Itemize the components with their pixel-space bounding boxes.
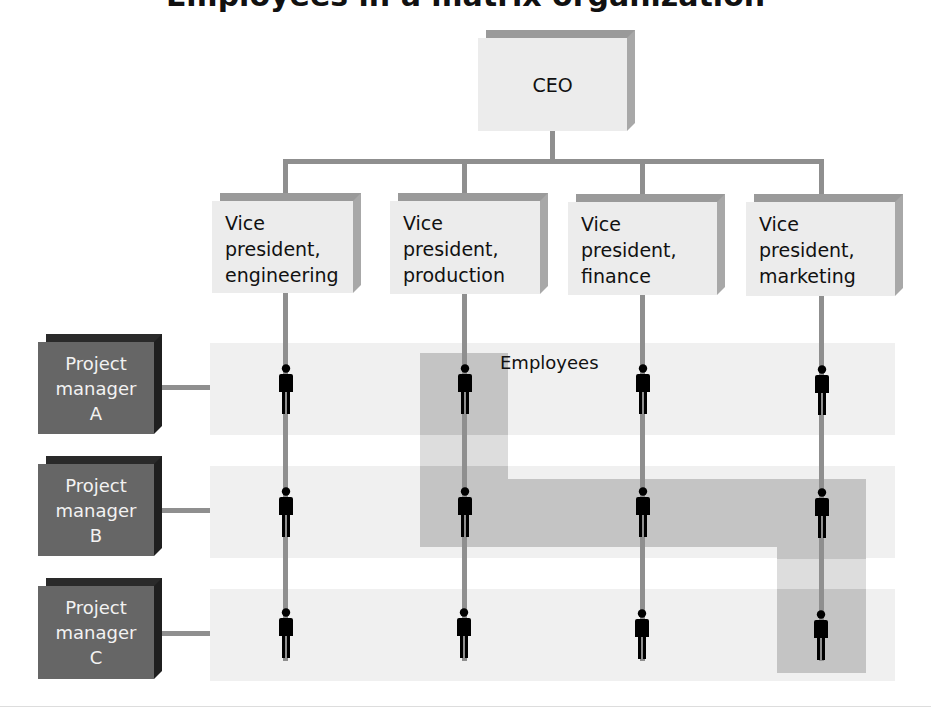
box-side-bevel — [154, 578, 162, 679]
finance-column-line — [640, 293, 645, 661]
highlight-b-finance-marketing — [508, 479, 866, 547]
person-icon — [635, 609, 649, 661]
box-side-bevel — [540, 193, 548, 294]
box-top-bevel — [576, 194, 725, 202]
person-icon — [279, 364, 293, 416]
box-side-bevel — [154, 456, 162, 556]
person-icon — [458, 364, 472, 416]
vp-production-box: Vice president, production — [390, 193, 548, 294]
box-top-bevel — [46, 456, 162, 464]
person-icon — [458, 487, 472, 539]
vp-marketing-box: Vice president, marketing — [746, 194, 903, 296]
ceo-label: CEO — [478, 38, 627, 131]
person-icon — [815, 488, 829, 540]
box-top-bevel — [754, 194, 903, 202]
marketing-column-line — [819, 295, 824, 661]
box-top-bevel — [46, 578, 162, 586]
ceo-box-top-bevel — [486, 30, 635, 38]
pm-b-box: Project manager B — [38, 456, 162, 556]
box-side-bevel — [353, 193, 361, 293]
diagram-title: Employees in a matrix organization — [0, 0, 931, 13]
vp-bus-connector — [283, 159, 824, 164]
box-top-bevel — [220, 193, 361, 201]
vp-production-connector — [462, 159, 467, 195]
vp-marketing-label: Vice president, marketing — [759, 211, 893, 289]
ceo-box-side-bevel — [627, 30, 635, 131]
pm-b-connector — [162, 508, 210, 513]
production-column-line — [462, 293, 467, 661]
box-side-bevel — [717, 194, 725, 295]
person-icon — [457, 608, 471, 660]
person-icon — [636, 364, 650, 416]
pm-a-label: Project manager A — [38, 342, 154, 434]
person-icon — [279, 608, 293, 660]
pm-c-connector — [162, 631, 210, 636]
bottom-divider — [0, 706, 931, 707]
box-top-bevel — [398, 193, 548, 201]
vp-engineering-box: Vice president, engineering — [212, 193, 361, 293]
box-top-bevel — [46, 334, 162, 342]
pm-c-label: Project manager C — [38, 586, 154, 679]
pm-c-box: Project manager C — [38, 578, 162, 679]
person-icon — [815, 365, 829, 417]
person-icon — [279, 487, 293, 539]
vp-engineering-label: Vice president, engineering — [225, 210, 351, 288]
pm-a-connector — [162, 385, 210, 390]
vp-finance-box: Vice president, finance — [568, 194, 725, 295]
ceo-box: CEO — [478, 30, 635, 131]
vp-finance-connector — [640, 159, 645, 195]
vp-marketing-connector — [819, 159, 824, 195]
engineering-column-line — [283, 293, 288, 661]
person-icon — [814, 610, 828, 662]
person-icon — [636, 487, 650, 539]
box-side-bevel — [154, 334, 162, 434]
pm-a-box: Project manager A — [38, 334, 162, 434]
vp-engineering-connector — [283, 159, 288, 195]
box-side-bevel — [895, 194, 903, 296]
vp-finance-label: Vice president, finance — [581, 211, 715, 289]
vp-production-label: Vice president, production — [403, 210, 538, 288]
pm-b-label: Project manager B — [38, 464, 154, 556]
employees-label: Employees — [500, 352, 599, 373]
